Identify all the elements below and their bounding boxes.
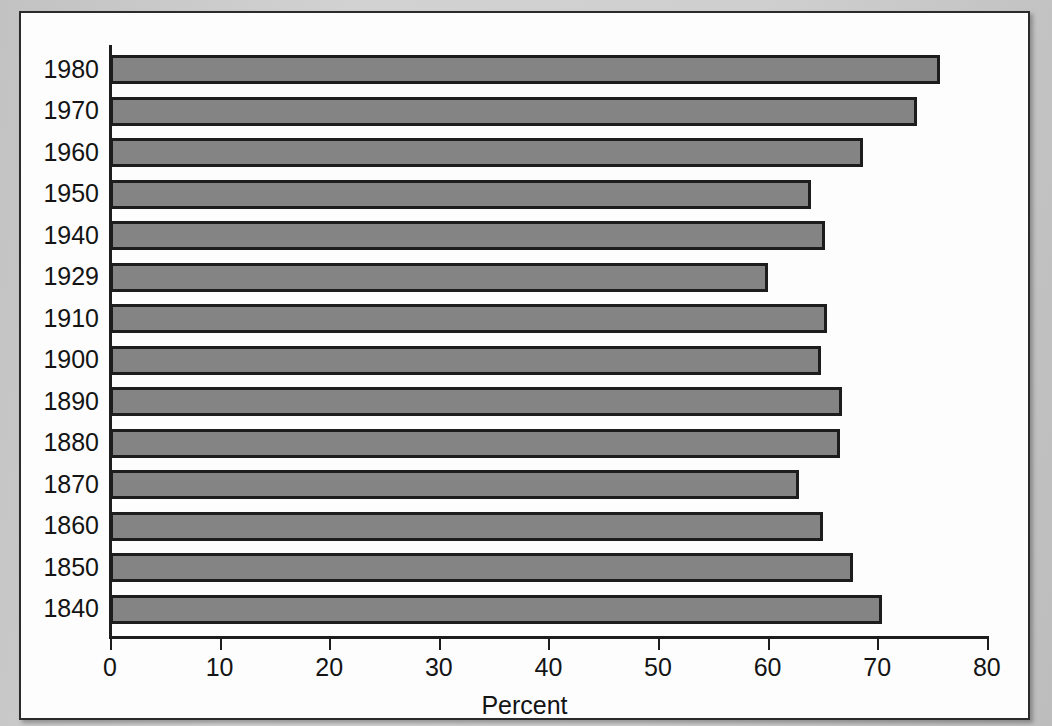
x-axis-tick bbox=[987, 639, 989, 650]
bar bbox=[110, 221, 825, 250]
x-axis-tick bbox=[110, 639, 112, 650]
y-axis-category-label: 1850 bbox=[21, 553, 99, 582]
y-axis-category-label: 1910 bbox=[21, 304, 99, 333]
x-axis-tick bbox=[439, 639, 441, 650]
bar-row: 1890 bbox=[21, 387, 1028, 416]
y-axis-category-label: 1840 bbox=[21, 594, 99, 623]
x-axis-tick-label: 40 bbox=[534, 653, 562, 682]
y-axis-category-label: 1900 bbox=[21, 345, 99, 374]
bar-row: 1870 bbox=[21, 470, 1028, 499]
bar bbox=[110, 346, 821, 375]
y-axis-category-label: 1960 bbox=[21, 138, 99, 167]
x-axis-tick-label: 20 bbox=[315, 653, 343, 682]
bar bbox=[110, 138, 863, 167]
bar bbox=[110, 263, 768, 292]
bar-chart-panel: 01020304050607080 1980197019601950194019… bbox=[19, 11, 1030, 720]
bar-row: 1929 bbox=[21, 263, 1028, 292]
y-axis-category-label: 1940 bbox=[21, 221, 99, 250]
x-axis-tick bbox=[548, 639, 550, 650]
bar-row: 1980 bbox=[21, 55, 1028, 84]
bar-row: 1850 bbox=[21, 553, 1028, 582]
x-axis-tick bbox=[658, 639, 660, 650]
bar bbox=[110, 55, 940, 84]
y-axis-category-label: 1929 bbox=[21, 262, 99, 291]
x-axis-tick bbox=[329, 639, 331, 650]
bar bbox=[110, 97, 917, 126]
x-axis-tick bbox=[877, 639, 879, 650]
x-axis-tick-label: 60 bbox=[754, 653, 782, 682]
x-axis-tick-label: 30 bbox=[425, 653, 453, 682]
bar-row: 1950 bbox=[21, 180, 1028, 209]
x-axis-tick bbox=[768, 639, 770, 650]
bar bbox=[110, 304, 827, 333]
y-axis-category-label: 1970 bbox=[21, 96, 99, 125]
bar-row: 1910 bbox=[21, 304, 1028, 333]
y-axis-category-label: 1870 bbox=[21, 470, 99, 499]
y-axis-category-label: 1950 bbox=[21, 179, 99, 208]
x-axis-tick bbox=[220, 639, 222, 650]
y-axis-category-label: 1980 bbox=[21, 55, 99, 84]
x-axis-tick-label: 80 bbox=[973, 653, 1001, 682]
y-axis-category-label: 1860 bbox=[21, 511, 99, 540]
bar bbox=[110, 429, 840, 458]
bar bbox=[110, 180, 811, 209]
x-axis-tick-label: 10 bbox=[206, 653, 234, 682]
bar bbox=[110, 512, 823, 541]
bar-row: 1960 bbox=[21, 138, 1028, 167]
bar bbox=[110, 470, 799, 499]
bar-row: 1840 bbox=[21, 595, 1028, 624]
bar bbox=[110, 595, 882, 624]
x-axis-tick-label: 0 bbox=[103, 653, 117, 682]
bar-row: 1860 bbox=[21, 512, 1028, 541]
bar bbox=[110, 387, 842, 416]
plot-area: 01020304050607080 1980197019601950194019… bbox=[21, 13, 1028, 718]
x-axis-title: Percent bbox=[21, 691, 1028, 720]
bar-row: 1940 bbox=[21, 221, 1028, 250]
bar-row: 1970 bbox=[21, 97, 1028, 126]
x-axis-tick-label: 50 bbox=[644, 653, 672, 682]
bar bbox=[110, 553, 853, 582]
y-axis-line bbox=[109, 45, 112, 637]
bar-row: 1880 bbox=[21, 429, 1028, 458]
x-axis-tick-label: 70 bbox=[863, 653, 891, 682]
y-axis-category-label: 1890 bbox=[21, 387, 99, 416]
y-axis-category-label: 1880 bbox=[21, 428, 99, 457]
bar-row: 1900 bbox=[21, 346, 1028, 375]
